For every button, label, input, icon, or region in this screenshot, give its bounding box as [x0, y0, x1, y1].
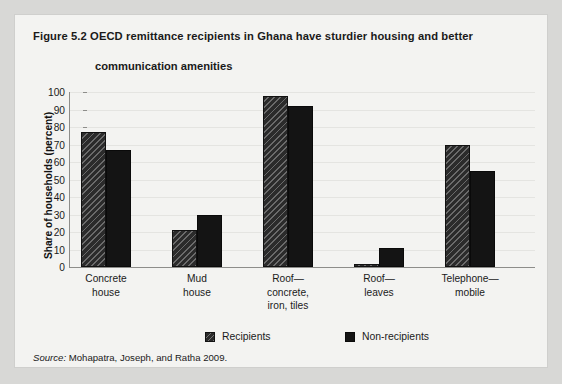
bar-recipients[interactable] — [263, 96, 288, 268]
x-axis-category-label: Mudhouse — [149, 272, 245, 299]
x-axis-category-line: Mud — [149, 272, 245, 286]
x-axis-category-label: Roof—leaves — [331, 272, 427, 299]
bar-group — [263, 92, 315, 267]
y-axis-tick-mark — [83, 267, 87, 268]
x-axis-category-line: leaves — [331, 286, 427, 300]
bar-recipients[interactable] — [81, 132, 106, 267]
x-axis-category-line: house — [149, 286, 245, 300]
x-axis-category-line: Roof— — [331, 272, 427, 286]
bar-nonrecipients[interactable] — [288, 106, 313, 267]
bar-nonrecipients[interactable] — [106, 150, 131, 267]
x-axis-category-label: Telephone—mobile — [422, 272, 518, 299]
x-axis-category-line: house — [58, 286, 154, 300]
chart-plot: 1009080706050403020100 Share of househol… — [15, 15, 549, 369]
bar-group — [445, 92, 497, 267]
bar-recipients[interactable] — [172, 230, 197, 267]
legend-item-recipients: Recipients — [205, 331, 271, 342]
x-axis-category-line: Concrete — [58, 272, 154, 286]
x-axis-category-line: Telephone— — [422, 272, 518, 286]
bar-group — [81, 92, 133, 267]
bar-group — [172, 92, 224, 267]
chart-legend: Recipients Non-recipients — [15, 331, 549, 347]
legend-swatch-nonrecipients-icon — [345, 332, 355, 342]
figure-panel: Figure 5.2 OECD remittance recipients in… — [14, 14, 548, 368]
bar-group — [354, 92, 406, 267]
source-note: Source: Mohapatra, Joseph, and Ratha 200… — [33, 352, 227, 363]
legend-label-recipients: Recipients — [222, 331, 271, 342]
x-axis-category-line: iron, tiles — [240, 299, 336, 313]
x-axis-line — [69, 267, 535, 268]
legend-item-nonrecipients: Non-recipients — [345, 331, 429, 342]
source-label: Source: — [33, 352, 66, 363]
legend-swatch-recipients-icon — [205, 332, 215, 342]
x-axis-category-line: concrete, — [240, 286, 336, 300]
y-axis-line — [69, 92, 70, 267]
bar-nonrecipients[interactable] — [470, 171, 495, 267]
x-axis-category-line: mobile — [422, 286, 518, 300]
bar-recipients[interactable] — [445, 145, 470, 268]
x-axis-category-label: Roof—concrete,iron, tiles — [240, 272, 336, 313]
source-text: Mohapatra, Joseph, and Ratha 2009. — [69, 352, 227, 363]
bar-nonrecipients[interactable] — [379, 248, 404, 267]
legend-label-nonrecipients: Non-recipients — [362, 331, 429, 342]
x-axis-category-line: Roof— — [240, 272, 336, 286]
y-axis-title: Share of households (percent) — [43, 96, 54, 276]
bar-nonrecipients[interactable] — [197, 215, 222, 268]
bar-recipients[interactable] — [354, 264, 379, 268]
x-axis-category-label: Concretehouse — [58, 272, 154, 299]
